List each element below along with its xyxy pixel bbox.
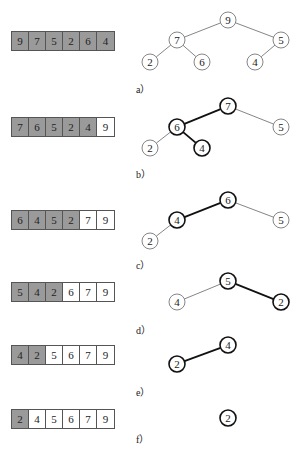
tree-node-value: 4 (252, 56, 258, 68)
tree-edge (183, 132, 196, 143)
tree-step-e: 42 (169, 337, 236, 372)
array-cell: 6 (12, 211, 29, 229)
array-cell: 2 (46, 283, 63, 301)
tree-node (194, 140, 210, 156)
array-cell: 4 (97, 32, 114, 50)
array-cell: 4 (80, 118, 97, 136)
tree-node-value: 2 (147, 235, 153, 247)
tree-node (142, 233, 158, 249)
tree-node-value: 2 (174, 358, 180, 370)
tree-node (273, 119, 289, 135)
array-cell: 7 (29, 32, 46, 50)
array-cell: 7 (12, 118, 29, 136)
tree-node-value: 9 (225, 14, 231, 26)
tree-node (220, 410, 236, 426)
array-cell: 9 (97, 211, 114, 229)
tree-node (273, 32, 289, 48)
tree-node-value: 7 (174, 34, 180, 46)
tree-node (169, 356, 185, 372)
tree-node-value: 6 (225, 194, 231, 206)
tree-edge (184, 109, 220, 124)
tree-node-value: 5 (278, 121, 284, 133)
array-cell: 2 (63, 211, 80, 229)
array-cell: 7 (80, 211, 97, 229)
tree-step-d: 542 (169, 273, 289, 310)
array-cell: 9 (97, 346, 114, 364)
tree-node-value: 5 (278, 34, 284, 46)
array-step-c: 6 4 5 2 7 9 (11, 210, 115, 230)
tree-node (220, 273, 236, 289)
array-cell: 5 (46, 346, 63, 364)
tree-edge (184, 348, 220, 361)
array-cell: 2 (63, 32, 80, 50)
array-cell: 6 (80, 32, 97, 50)
array-cell: 2 (63, 118, 80, 136)
tree-node-value: 5 (225, 275, 231, 287)
tree-edge (235, 203, 273, 217)
tree-node (169, 294, 185, 310)
tree-node-value: 5 (278, 214, 284, 226)
tree-node (273, 212, 289, 228)
tree-node-value: 6 (174, 121, 180, 133)
tree-node (220, 192, 236, 208)
step-label-d: d） (136, 322, 151, 337)
array-cell: 7 (80, 283, 97, 301)
tree-node-value: 4 (174, 214, 180, 226)
tree-node-value: 2 (278, 296, 284, 308)
array-cell: 2 (29, 346, 46, 364)
step-label-c: c） (136, 257, 150, 272)
tree-node-value: 4 (174, 296, 180, 308)
tree-edge (156, 45, 171, 57)
tree-step-c: 6452 (142, 192, 289, 249)
array-step-f: 2 4 5 6 7 9 (11, 409, 115, 429)
array-step-b: 7 6 5 2 4 9 (11, 117, 115, 137)
step-label-e: e） (136, 384, 150, 399)
tree-node-value: 6 (199, 56, 205, 68)
tree-node (169, 212, 185, 228)
step-label-a: a） (136, 81, 150, 96)
tree-edge (235, 23, 273, 37)
step-label-f: f） (136, 431, 149, 446)
tree-step-b: 76524 (142, 98, 289, 156)
tree-node-value: 7 (225, 100, 231, 112)
array-cell: 2 (12, 410, 29, 428)
tree-node (273, 294, 289, 310)
array-cell: 5 (46, 118, 63, 136)
tree-edge (156, 225, 170, 236)
array-cell: 6 (63, 410, 80, 428)
tree-node-value: 2 (147, 142, 153, 154)
array-cell: 9 (97, 118, 114, 136)
tree-edge (235, 109, 273, 124)
tree-edge (184, 284, 220, 299)
tree-edge (156, 132, 170, 143)
array-cell: 5 (12, 283, 29, 301)
tree-node (220, 12, 236, 28)
array-cell: 9 (97, 283, 114, 301)
tree-edge (184, 23, 220, 37)
array-cell: 4 (29, 211, 46, 229)
tree-node-value: 4 (225, 339, 231, 351)
tree-node-value: 2 (147, 56, 153, 68)
array-cell: 7 (80, 410, 97, 428)
array-cell: 6 (63, 283, 80, 301)
tree-node (142, 140, 158, 156)
array-cell: 4 (29, 283, 46, 301)
array-cell: 5 (46, 211, 63, 229)
array-cell: 4 (29, 410, 46, 428)
array-cell: 6 (29, 118, 46, 136)
array-step-e: 4 2 5 6 7 9 (11, 345, 115, 365)
tree-node (194, 54, 210, 70)
tree-node (142, 54, 158, 70)
tree-edge (261, 45, 275, 57)
tree-node-value: 2 (225, 412, 231, 424)
tree-step-f: 2 (220, 410, 236, 426)
tree-node-value: 4 (199, 142, 205, 154)
array-cell: 9 (12, 32, 29, 50)
tree-edge (235, 284, 273, 299)
tree-step-a: 975264 (142, 12, 289, 70)
tree-edge (184, 203, 220, 217)
tree-edge (183, 45, 196, 56)
array-cell: 5 (46, 32, 63, 50)
array-step-a: 9 7 5 2 6 4 (11, 31, 115, 51)
step-label-b: b） (136, 166, 151, 181)
